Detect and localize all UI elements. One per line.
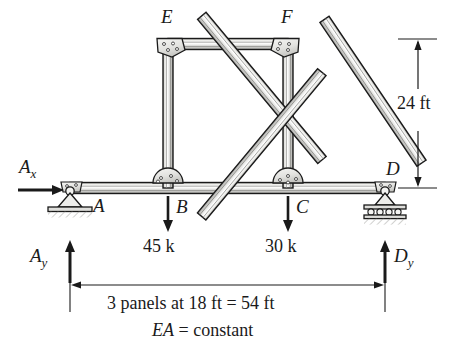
dimension-label-span: 3 panels at 18 ft = 54 ft — [107, 293, 275, 314]
reaction-label-Ax-subscript: x — [31, 166, 37, 181]
joint-label-A: A — [93, 195, 105, 217]
dimension-label-height: 24 ft — [397, 93, 431, 114]
reaction-arrow-Ax — [18, 185, 64, 195]
reaction-label-Ay-subscript: y — [42, 255, 48, 270]
reaction-label-Dy-letter: D — [394, 245, 408, 266]
joint-label-B: B — [176, 196, 188, 218]
reaction-label-Ax-letter: A — [19, 156, 31, 177]
member-vertical-EB — [163, 44, 173, 188]
joint-label-D: D — [386, 158, 400, 180]
joint-label-F: F — [281, 6, 293, 28]
material-note-text: = constant — [174, 320, 253, 340]
material-note-symbol: EA — [152, 320, 174, 340]
reaction-arrow-Dy — [380, 240, 390, 283]
joint-label-E: E — [161, 6, 173, 28]
joint-gusset-E — [157, 39, 185, 58]
member-end-post-AE — [0, 0, 17, 85]
load-arrow-B — [163, 196, 173, 232]
reaction-label-Ay: Ay — [30, 245, 47, 271]
material-note: EA = constant — [152, 320, 253, 341]
load-label-C: 30 k — [265, 236, 297, 257]
reaction-label-Dy: Dy — [394, 245, 414, 271]
joint-gusset-F — [271, 39, 299, 58]
reaction-label-Ax: Ax — [19, 156, 36, 182]
joint-gusset-B — [153, 168, 183, 183]
truss-diagram: E F A B C D Ax Ay Dy 45 k 30 k 24 ft 3 p… — [0, 0, 457, 355]
reaction-label-Ay-letter: A — [30, 245, 42, 266]
load-label-B: 45 k — [143, 236, 175, 257]
load-arrow-C — [283, 196, 293, 232]
reaction-arrow-Ay — [65, 240, 75, 283]
joint-gusset-C — [273, 168, 303, 184]
reaction-label-Dy-subscript: y — [408, 255, 414, 270]
joint-label-C: C — [296, 196, 309, 218]
